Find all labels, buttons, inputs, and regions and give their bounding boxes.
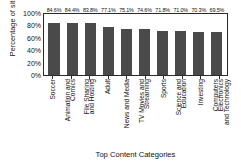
bar-slot: 84.6%	[45, 14, 63, 75]
x-axis-category-label: TV Movies andStreaming	[139, 79, 150, 145]
bar-value-label: 71.0%	[173, 8, 188, 13]
x-axis-category-label: Sports	[161, 79, 172, 145]
bar-value-label: 77.1%	[101, 8, 116, 13]
x-axis-category-label: File Sharingand Hosting	[84, 79, 95, 145]
x-axis-category-label: Animation andComics	[65, 79, 76, 145]
x-axis-category-label-line: Adult	[105, 79, 110, 145]
bar	[85, 23, 96, 74]
bar	[67, 23, 78, 74]
x-axis-category-label-line: and Technology	[224, 79, 229, 145]
x-axis-category-label-line: Education	[182, 79, 187, 145]
y-axis-tick-label: 60%	[27, 34, 41, 41]
x-axis-category-label-line: and Hosting	[89, 79, 94, 145]
bar-slot: 83.8%	[81, 14, 99, 75]
bar-slot: 71.0%	[172, 14, 190, 75]
bar-value-label: 70.3%	[192, 8, 207, 13]
y-axis-tick-label: 100%	[23, 10, 41, 17]
x-axis-category-label: Science andEducation	[176, 79, 187, 145]
bar-slot: 70.3%	[190, 14, 208, 75]
bar	[139, 29, 150, 75]
bar-value-label: 71.8%	[155, 8, 170, 13]
y-axis-title: Percentage of sites	[8, 0, 17, 63]
x-axis-category-label: Soccer	[50, 79, 61, 145]
bar-value-label: 84.6%	[47, 8, 62, 13]
y-axis-tick-label: 80%	[27, 22, 41, 29]
bar-slot: 75.1%	[117, 14, 135, 75]
bar-chart: Percentage of sites 100%80%60%40%20%0% 8…	[0, 0, 241, 166]
bar-slot: 84.4%	[63, 14, 81, 75]
y-axis-tick-label: 20%	[27, 59, 41, 66]
bar-value-label: 83.8%	[83, 8, 98, 13]
bar-series: 84.6%84.4%83.8%77.1%75.1%74.6%71.8%71.0%…	[44, 14, 227, 75]
bar	[175, 31, 186, 74]
bar	[157, 31, 168, 75]
x-axis-title: Top Content Categories	[43, 150, 228, 159]
plot-area: 84.6%84.4%83.8%77.1%75.1%74.6%71.8%71.0%…	[43, 13, 228, 76]
x-axis-category-label: Computers Electronicsand Technology	[213, 79, 224, 145]
bar-slot: 71.8%	[154, 14, 172, 75]
bar-value-label: 74.6%	[137, 8, 152, 13]
bar-slot: 69.5%	[208, 14, 226, 75]
bar	[121, 29, 132, 75]
y-axis-tick-labels: 100%80%60%40%20%0%	[17, 13, 41, 75]
bar	[103, 27, 114, 74]
y-axis-tick-label: 0%	[31, 72, 41, 79]
y-axis-tick-label: 40%	[27, 47, 41, 54]
bar-value-label: 84.4%	[65, 8, 80, 13]
bar	[193, 32, 204, 75]
x-axis-category-label-line: Investing	[198, 79, 203, 145]
x-axis-category-label: News and Media	[124, 79, 135, 145]
x-axis-category-label: Investing	[198, 79, 209, 145]
bar-value-label: 69.5%	[210, 8, 225, 13]
x-axis-category-label-line: Streaming	[145, 79, 150, 145]
bar	[211, 32, 222, 74]
x-axis-category-label: Adult	[105, 79, 116, 145]
x-axis-category-label-line: Comics	[71, 79, 76, 145]
bar-slot: 74.6%	[135, 14, 153, 75]
x-axis-category-label-line: News and Media	[124, 79, 129, 145]
x-axis-category-label-line: Soccer	[50, 79, 55, 145]
x-axis-category-label-line: Sports	[161, 79, 166, 145]
bar-value-label: 75.1%	[119, 8, 134, 13]
bar	[48, 23, 59, 75]
x-axis-category-labels: SoccerAnimation andComicsFile Sharingand…	[43, 79, 228, 145]
bar-slot: 77.1%	[99, 14, 117, 75]
